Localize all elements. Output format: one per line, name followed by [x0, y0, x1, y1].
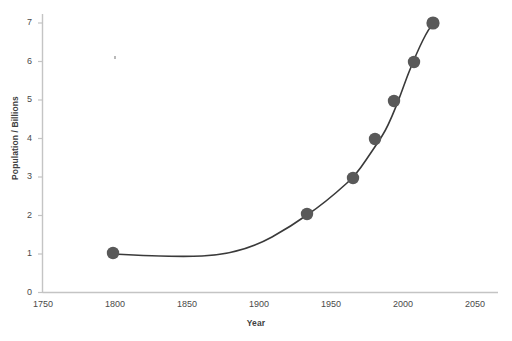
y-tick-label-4: 4 [16, 133, 32, 144]
chart-plot-area [0, 0, 512, 341]
y-tick-label-0: 0 [16, 287, 32, 298]
y-tick-label-2: 2 [16, 210, 32, 221]
x-tick-label-1750: 1750 [23, 298, 63, 310]
population-growth-chart: Population / Billions Year 0 1 2 3 4 5 6… [0, 0, 512, 341]
data-point-1960 [347, 172, 359, 184]
data-point-1930 [301, 208, 313, 220]
y-tick-label-3: 3 [16, 171, 32, 182]
data-point-1999 [408, 56, 420, 68]
x-tick-label-2000: 2000 [383, 298, 423, 310]
x-tick-label-2050: 2050 [455, 298, 495, 310]
data-point-markers [107, 16, 440, 259]
x-tick-label-1850: 1850 [167, 298, 207, 310]
x-tick-label-1900: 1900 [239, 298, 279, 310]
data-point-1975 [369, 133, 381, 145]
population-curve [113, 24, 433, 256]
y-tick-label-7: 7 [16, 17, 32, 28]
y-tick-label-5: 5 [16, 94, 32, 105]
data-point-1800 [107, 247, 119, 259]
data-point-2012 [426, 16, 439, 29]
x-tick-label-1800: 1800 [95, 298, 135, 310]
x-tick-label-1950: 1950 [311, 298, 351, 310]
x-axis-title: Year [196, 318, 316, 328]
stray-mark-artifact [114, 56, 116, 59]
y-tick-label-1: 1 [16, 248, 32, 259]
y-tick-label-6: 6 [16, 56, 32, 67]
data-point-1987 [388, 95, 400, 107]
